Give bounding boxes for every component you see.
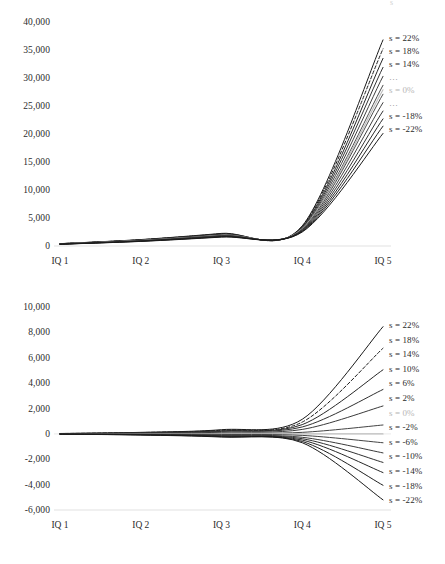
y-axis-tick-label: 0 xyxy=(45,241,50,251)
y-axis-tick-label: 5,000 xyxy=(28,213,50,223)
legend-label: s = 2% xyxy=(389,393,415,403)
legend-label: s = -6% xyxy=(389,437,418,447)
x-axis-tick-label: IQ 2 xyxy=(107,520,175,530)
legend-label: s = 10% xyxy=(389,364,419,374)
y-axis-tick-label: -6,000 xyxy=(25,505,50,515)
x-axis-tick-label: IQ 3 xyxy=(188,520,256,530)
series-line xyxy=(60,49,383,244)
x-axis-tick-label: IQ 1 xyxy=(26,256,94,266)
y-axis-tick-label: 40,000 xyxy=(23,17,50,27)
y-axis-tick-label: 2,000 xyxy=(28,404,50,414)
series-line xyxy=(60,67,383,243)
y-axis-tick-label: 35,000 xyxy=(23,45,50,55)
legend-label: s = 22% xyxy=(389,33,419,43)
legend-label: s = 18% xyxy=(389,46,419,56)
y-axis-tick-label: 25,000 xyxy=(23,101,50,111)
series-line xyxy=(60,434,383,485)
legend-label: s = -22% xyxy=(389,495,422,505)
series-line xyxy=(60,434,383,472)
legend-label: s = 18% xyxy=(389,335,419,345)
x-axis-tick-label: IQ 5 xyxy=(349,256,417,266)
series-line xyxy=(60,434,383,500)
y-axis-tick-label: 8,000 xyxy=(28,327,50,337)
y-axis-tick-label: 6,000 xyxy=(28,353,50,363)
series-line xyxy=(60,327,383,434)
x-axis-tick-label: IQ 1 xyxy=(26,520,94,530)
legend-label: s = -18% xyxy=(389,481,422,491)
series-line xyxy=(60,133,383,244)
plot-lines-group xyxy=(0,0,445,282)
y-axis-tick-label: 15,000 xyxy=(23,157,50,167)
clipped-title-glyph: s xyxy=(390,0,393,7)
y-axis-tick-label: 4,000 xyxy=(28,378,50,388)
upper-plot-area: 40,00035,00030,00025,00020,00015,00010,0… xyxy=(0,0,445,282)
y-axis-tick-label: 10,000 xyxy=(23,185,50,195)
series-line xyxy=(60,58,383,243)
legend-label: s = -10% xyxy=(389,451,422,461)
series-line xyxy=(60,389,383,433)
series-line xyxy=(60,94,383,244)
y-axis-tick-label: 20,000 xyxy=(23,129,50,139)
legend-label: s = 0% xyxy=(389,85,415,95)
lower-plot-area: 10,0008,0006,0004,0002,0000-2,000-4,000-… xyxy=(0,282,445,564)
y-axis-tick-label: 0 xyxy=(45,429,50,439)
legend-label: s = -2% xyxy=(389,422,418,432)
legend-label: s = 0% xyxy=(389,408,415,418)
x-axis-tick-label: IQ 4 xyxy=(268,256,336,266)
legend-label: s = -22% xyxy=(389,124,422,134)
legend-label: s = 14% xyxy=(389,349,419,359)
x-axis-tick-label: IQ 2 xyxy=(107,256,175,266)
y-axis-tick-label: -2,000 xyxy=(25,454,50,464)
series-line xyxy=(60,126,383,244)
upper-chart-panel: 40,00035,00030,00025,00020,00015,00010,0… xyxy=(0,0,445,282)
series-line xyxy=(60,76,383,244)
x-axis-tick-label: IQ 4 xyxy=(268,520,336,530)
legend-label: … xyxy=(389,98,399,108)
legend-label: s = -18% xyxy=(389,111,422,121)
x-axis-tick-label: IQ 5 xyxy=(349,520,417,530)
lower-chart-panel: 10,0008,0006,0004,0002,0000-2,000-4,000-… xyxy=(0,282,445,564)
x-axis-tick-label: IQ 3 xyxy=(188,256,256,266)
series-line xyxy=(60,370,383,434)
series-line xyxy=(60,348,383,433)
legend-label: s = 22% xyxy=(389,320,419,330)
legend-label: s = -14% xyxy=(389,466,422,476)
series-line xyxy=(60,40,383,244)
y-axis-tick-label: 30,000 xyxy=(23,73,50,83)
legend-label: s = 6% xyxy=(389,378,415,388)
y-axis-tick-label: 10,000 xyxy=(23,302,50,312)
legend-label: s = 14% xyxy=(389,59,419,69)
y-axis-tick-label: -4,000 xyxy=(25,480,50,490)
legend-label: … xyxy=(389,72,399,82)
